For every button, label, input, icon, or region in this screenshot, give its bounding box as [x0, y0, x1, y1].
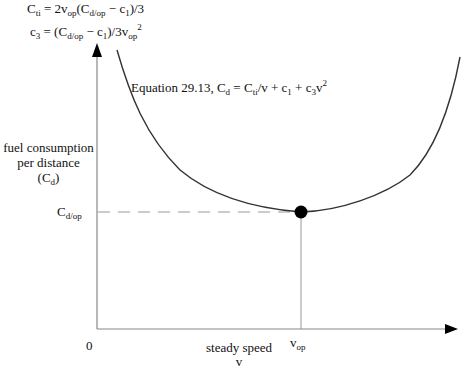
x-axis-arrow-icon	[445, 324, 458, 334]
equation-label: Equation 29.13, Cd = Cti/v + c1 + c3v2	[131, 76, 327, 99]
y-tick-cdop: Cd/op	[57, 205, 82, 223]
cti-formula: Cti = 2vop(Cd/op − c1)/3	[27, 2, 144, 20]
x-tick-vop: vop	[290, 336, 306, 354]
c3-formula: c3 = (Cd/op − c1)/3vop2	[30, 20, 142, 43]
y-axis-label-line3: (Cd)	[0, 171, 97, 189]
origin-label: 0	[86, 339, 93, 353]
y-axis-label-line2: per distance	[0, 156, 97, 170]
optimum-point-marker	[295, 206, 308, 219]
x-axis-label-line1: steady speed	[190, 341, 288, 355]
y-axis-arrow-icon	[92, 43, 102, 57]
fuel-consumption-curve	[117, 50, 460, 212]
x-axis-label-line2: v	[190, 355, 288, 369]
y-axis-label-line1: fuel consumption	[0, 141, 97, 155]
